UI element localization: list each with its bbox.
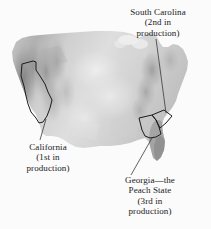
- annotation-ga-line-2: Peach State: [98, 185, 202, 195]
- annotation-sc-line-1: South Carolina: [108, 7, 208, 17]
- annotation-ga-line-4: production): [98, 206, 202, 216]
- annotation-sc-line-2: (2nd in: [108, 17, 208, 27]
- annotation-california: California (1st in production): [2, 142, 94, 173]
- annotation-ga-line-1: Georgia—the: [98, 175, 202, 185]
- annotation-south-carolina: South Carolina (2nd in production): [108, 7, 208, 38]
- annotation-ga-line-3: (3rd in: [98, 196, 202, 206]
- peach-production-map-figure: South Carolina (2nd in production) Calif…: [0, 0, 211, 229]
- annotation-ca-line-3: production): [2, 163, 94, 173]
- annotation-ca-line-1: California: [2, 142, 94, 152]
- annotation-georgia: Georgia—the Peach State (3rd in producti…: [98, 175, 202, 217]
- annotation-ca-line-2: (1st in: [2, 152, 94, 162]
- leader-line-georgia: [131, 138, 152, 175]
- annotation-sc-line-3: production): [108, 28, 208, 38]
